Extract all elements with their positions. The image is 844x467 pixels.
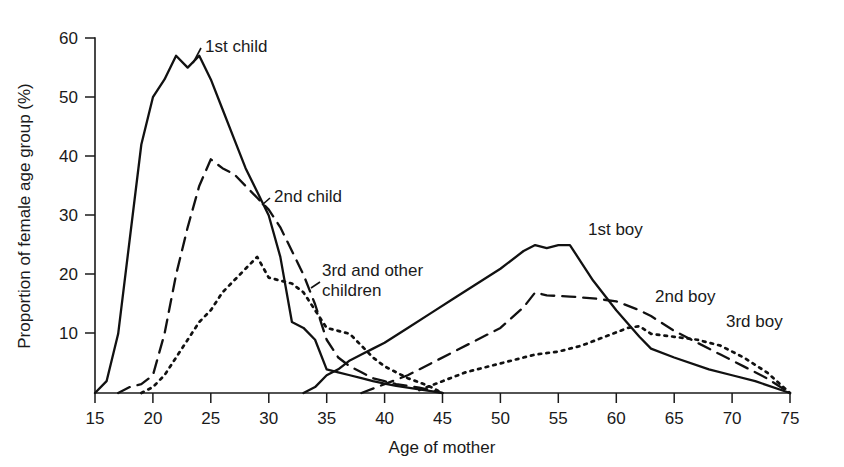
- data-curves: [95, 56, 790, 393]
- series-label-2nd-child: 2nd child: [274, 187, 342, 206]
- x-tick-label: 20: [143, 409, 162, 428]
- x-tick-label: 15: [86, 409, 105, 428]
- x-tick-label: 55: [549, 409, 568, 428]
- x-axis-tick-labels: 15 20 25 30 35 40 45 50 55 60 65 70 75: [86, 409, 800, 428]
- x-axis-title: Age of mother: [389, 438, 496, 457]
- series-label-3rd-boy: 3rd boy: [726, 312, 783, 331]
- series-label-3rd-children-line2: children: [322, 281, 382, 300]
- y-tick-label: 50: [59, 88, 78, 107]
- y-tick-label: 40: [59, 147, 78, 166]
- x-tick-label: 65: [665, 409, 684, 428]
- line-chart: 60 50 40 30 20 10 15 20 25: [0, 0, 844, 467]
- y-tick-label: 10: [59, 324, 78, 343]
- y-axis-tick-labels: 60 50 40 30 20 10: [59, 29, 78, 343]
- x-tick-label: 40: [375, 409, 394, 428]
- y-tick-label: 60: [59, 29, 78, 48]
- series-label-3rd-children-line1: 3rd and other: [322, 261, 423, 280]
- figure-panel: 60 50 40 30 20 10 15 20 25: [0, 0, 844, 467]
- x-tick-label: 35: [317, 409, 336, 428]
- x-tick-label: 45: [433, 409, 452, 428]
- x-tick-label: 70: [723, 409, 742, 428]
- y-tick-label: 30: [59, 206, 78, 225]
- leader-2nd-child: [262, 198, 270, 205]
- x-tick-label: 50: [491, 409, 510, 428]
- leader-3rd-children: [311, 282, 320, 288]
- x-tick-label: 60: [607, 409, 626, 428]
- series-curve: [95, 56, 443, 393]
- y-tick-label: 20: [59, 265, 78, 284]
- y-axis-title: Proportion of female age group (%): [15, 83, 34, 349]
- x-tick-label: 30: [259, 409, 278, 428]
- series-label-1st-boy: 1st boy: [588, 220, 643, 239]
- x-tick-label: 75: [781, 409, 800, 428]
- x-tick-label: 25: [201, 409, 220, 428]
- series-label-1st-child: 1st child: [205, 37, 267, 56]
- y-axis-ticks: [85, 38, 95, 333]
- series-curve: [361, 292, 790, 393]
- series-label-2nd-boy: 2nd boy: [655, 287, 716, 306]
- x-axis-ticks: [95, 393, 790, 403]
- series-curve: [419, 326, 790, 393]
